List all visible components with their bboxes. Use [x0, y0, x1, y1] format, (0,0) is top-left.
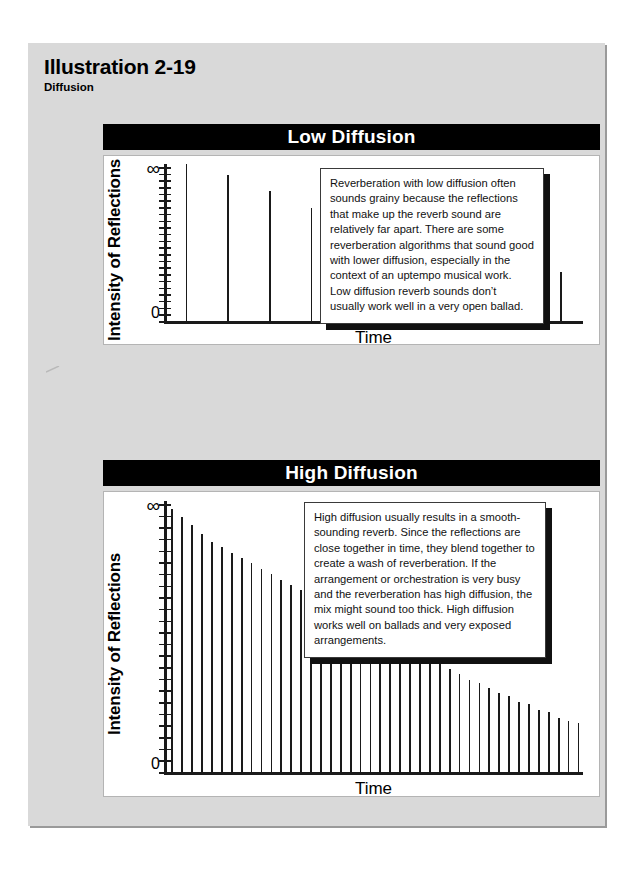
- scan-artifact-mark: [46, 366, 60, 373]
- y-axis-max-label-low: ∞: [136, 158, 160, 180]
- y-axis-tick: [159, 667, 171, 669]
- y-axis-tick: [159, 586, 171, 588]
- panel-high-diffusion: High Diffusion Intensity of Reflections …: [103, 460, 600, 818]
- y-axis-tick: [159, 241, 171, 243]
- panel-title-high-diffusion: High Diffusion: [103, 460, 600, 486]
- reflection-bar: [459, 674, 461, 772]
- reflection-bar: [449, 669, 451, 772]
- y-axis-tick: [159, 516, 171, 518]
- y-axis-tick: [159, 294, 171, 296]
- reflection-bar: [311, 208, 313, 321]
- reflection-bar: [568, 721, 570, 772]
- y-axis-max-label-high: ∞: [136, 495, 160, 517]
- y-axis-tick: [159, 288, 171, 290]
- y-axis-tick: [159, 234, 171, 236]
- reflection-bar: [241, 558, 243, 772]
- y-axis-tick: [159, 200, 171, 202]
- reflection-bar: [271, 574, 273, 772]
- y-axis-tick: [159, 644, 171, 646]
- y-axis-min-label-low: 0: [136, 304, 160, 322]
- reflection-bar: [409, 650, 411, 772]
- reflection-bar: [227, 175, 229, 321]
- y-axis-tick: [159, 725, 171, 727]
- y-axis-tick: [159, 655, 171, 657]
- y-axis-tick: [159, 314, 171, 316]
- page-subtitle: Diffusion: [44, 80, 196, 95]
- x-axis-label-high: Time: [164, 779, 583, 799]
- y-axis-tick: [159, 261, 171, 263]
- y-axis-label-low: Intensity of Reflections: [98, 156, 132, 344]
- illustration-card: Illustration 2-19 Diffusion Low Diffusio…: [28, 43, 605, 826]
- y-axis-tick: [159, 504, 171, 506]
- y-axis-label-low-text: Intensity of Reflections: [105, 159, 125, 341]
- y-axis-tick: [159, 551, 171, 553]
- y-axis-tick: [159, 247, 171, 249]
- x-axis-line-high: [164, 772, 583, 775]
- reflection-bar: [290, 585, 292, 772]
- y-axis-tick: [159, 714, 171, 716]
- y-axis-tick: [159, 597, 171, 599]
- page-title: Illustration 2-19: [44, 55, 196, 79]
- callout-low-diffusion: Reverberation with low diffusion often s…: [320, 168, 544, 324]
- y-axis-tick: [159, 254, 171, 256]
- y-axis-tick: [159, 227, 171, 229]
- reflection-bar: [300, 590, 302, 772]
- reflection-bar: [251, 563, 253, 772]
- y-axis-tick: [159, 180, 171, 182]
- y-axis-tick: [159, 679, 171, 681]
- y-axis-tick: [159, 221, 171, 223]
- y-axis-label-high-text: Intensity of Reflections: [105, 553, 125, 735]
- panel-title-low-diffusion: Low Diffusion: [103, 124, 600, 150]
- reflection-bar: [439, 664, 441, 772]
- reflection-bar: [560, 272, 562, 321]
- y-axis-tick: [159, 690, 171, 692]
- y-axis-tick: [159, 702, 171, 704]
- heading-block: Illustration 2-19 Diffusion: [44, 55, 196, 95]
- y-axis-tick: [159, 174, 171, 176]
- y-axis-tick: [159, 609, 171, 611]
- reflection-bar: [488, 688, 490, 772]
- x-axis-label-low: Time: [164, 328, 583, 348]
- reflection-bar: [231, 553, 233, 773]
- y-axis-tick: [159, 267, 171, 269]
- reflection-bar: [548, 712, 550, 772]
- y-axis-tick: [159, 194, 171, 196]
- y-axis-tick: [159, 301, 171, 303]
- y-axis-tick: [159, 274, 171, 276]
- reflection-bar: [269, 191, 271, 321]
- y-axis-tick: [159, 214, 171, 216]
- callout-high-diffusion: High diffusion usually results in a smoo…: [304, 502, 546, 658]
- reflection-bar: [508, 696, 510, 772]
- illustration-page: Illustration 2-19 Diffusion Low Diffusio…: [0, 0, 634, 877]
- y-axis-tick: [159, 321, 171, 323]
- reflection-bar: [528, 704, 530, 772]
- reflection-bar: [498, 693, 500, 772]
- y-axis-tick: [159, 167, 171, 169]
- y-axis-min-label-high: 0: [136, 755, 160, 773]
- reflection-bar: [186, 164, 188, 321]
- reflection-bar: [389, 639, 391, 772]
- reflection-bar: [211, 542, 213, 772]
- y-axis-label-high: Intensity of Reflections: [98, 492, 132, 796]
- reflection-bar: [191, 525, 193, 772]
- reflection-bar: [261, 569, 263, 772]
- reflection-bar: [419, 655, 421, 772]
- y-axis-tick: [159, 621, 171, 623]
- reflection-bar: [171, 509, 173, 772]
- panel-low-diffusion: Low Diffusion Intensity of Reflections ∞…: [103, 124, 600, 366]
- y-axis-tick: [159, 527, 171, 529]
- y-axis-tick: [159, 749, 171, 751]
- reflection-bar: [558, 718, 560, 772]
- y-axis-tick: [159, 737, 171, 739]
- reflection-bar: [469, 680, 471, 772]
- reflection-bar: [201, 534, 203, 772]
- y-axis-tick: [159, 187, 171, 189]
- reflection-bar: [538, 710, 540, 772]
- y-axis-tick: [159, 632, 171, 634]
- plot-low-diffusion: Intensity of Reflections ∞ 0 Time Reverb…: [103, 155, 600, 345]
- reflection-bar: [181, 517, 183, 772]
- y-axis-tick: [159, 281, 171, 283]
- y-axis-tick: [159, 772, 171, 774]
- reflection-bar: [578, 723, 580, 772]
- y-axis-tick: [159, 574, 171, 576]
